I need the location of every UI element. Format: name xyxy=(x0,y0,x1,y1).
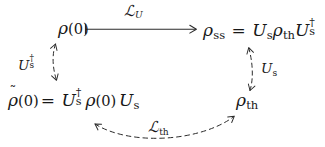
edge-dagger-icon: † xyxy=(29,54,33,63)
edge-label-lu: ℒU xyxy=(122,4,145,20)
arrow-right-us xyxy=(249,48,253,91)
rho-tilde-equals: = xyxy=(39,90,57,110)
rho-ss-symbol: ρ xyxy=(203,20,213,40)
rho-th-subscript: th xyxy=(283,28,295,42)
rho-tilde-group: ˜ρ xyxy=(8,92,18,109)
rho-symbol: ρ xyxy=(58,18,68,38)
rho-tilde-argument: (0) xyxy=(18,92,39,109)
rho-ss-equals: = xyxy=(229,20,247,40)
rho-th-node-symbol: ρ xyxy=(236,90,246,110)
node-rho-tilde-0: ˜ρ(0)=Us†ρ(0)Us xyxy=(8,89,140,112)
edge-us-subscript: s xyxy=(273,67,278,78)
dagger-icon: † xyxy=(309,17,315,28)
lth-subscript: th xyxy=(159,126,169,137)
rho-ss-subscript: ss xyxy=(213,28,225,42)
lu-subscript: U xyxy=(135,9,143,20)
commutative-diagram: ρ(0) ρss=UsρthUs† ˜ρ(0)=Us†ρ(0)Us ρth ℒU… xyxy=(0,0,325,147)
us-subscript-2: s xyxy=(134,98,140,112)
script-l-icon: ℒ xyxy=(124,2,135,20)
tilde-icon: ˜ xyxy=(9,84,16,98)
us-dagger-letter: U xyxy=(295,20,309,40)
script-l-icon-2: ℒ xyxy=(148,118,159,136)
node-rho-0: ρ(0) xyxy=(58,20,89,37)
rho-th-symbol: ρ xyxy=(273,20,283,40)
node-rho-ss: ρss=UsρthUs† xyxy=(203,19,316,42)
node-rho-th: ρth xyxy=(236,92,258,112)
edge-label-us: Us xyxy=(259,62,279,77)
edge-label-us-dagger: Us† xyxy=(16,56,37,72)
edge-us-dagger-scripts: s† xyxy=(29,56,35,70)
dagger-icon-2: † xyxy=(76,87,82,98)
arrow-left-us-dagger xyxy=(53,44,56,80)
edge-us-dagger-letter: U xyxy=(18,57,29,73)
mid-rho-symbol: ρ xyxy=(86,90,96,110)
rho-th-node-subscript: th xyxy=(246,98,258,112)
edge-us-letter: U xyxy=(261,60,272,76)
mid-rho-argument: (0) xyxy=(96,92,117,109)
us-letter-2: U xyxy=(119,90,133,110)
us-dagger-scripts: s† xyxy=(309,19,316,36)
us-letter: U xyxy=(252,20,266,40)
rho-0-argument: (0) xyxy=(68,20,89,37)
edge-label-lth: ℒth xyxy=(146,120,171,136)
us-dagger-letter-2: U xyxy=(61,90,75,110)
us-dagger-scripts-2: s† xyxy=(76,89,83,106)
